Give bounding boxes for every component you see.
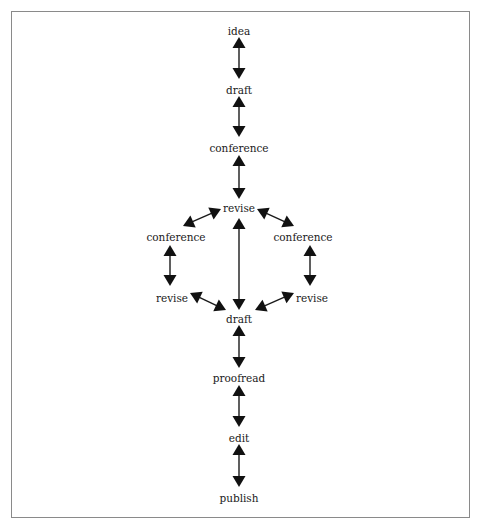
node-draft2: draft bbox=[226, 313, 253, 325]
arrowhead-icon bbox=[233, 476, 246, 487]
edge-conference_left-revise_left bbox=[164, 245, 177, 286]
arrowhead-icon bbox=[233, 155, 246, 166]
edge-proofread-edit bbox=[233, 385, 246, 427]
node-idea: idea bbox=[228, 25, 251, 37]
arrowhead-icon bbox=[233, 444, 246, 455]
arrowhead-icon bbox=[233, 188, 246, 199]
arrowhead-icon bbox=[304, 275, 317, 286]
edge-revise_center-conference_right bbox=[257, 208, 294, 228]
arrowhead-icon bbox=[233, 325, 246, 336]
edge-revise_left-draft2 bbox=[190, 292, 226, 311]
arrowhead-icon bbox=[304, 245, 317, 256]
node-revise_center: revise bbox=[223, 202, 255, 214]
writing-process-diagram: ideadraftconferencereviseconferenceconfe… bbox=[0, 0, 481, 527]
arrowhead-icon bbox=[233, 37, 246, 48]
node-publish: publish bbox=[219, 492, 258, 504]
node-conference_right: conference bbox=[273, 231, 332, 243]
edge-idea-draft1 bbox=[233, 37, 246, 79]
edge-conference1-revise_center bbox=[233, 155, 246, 199]
arrowhead-icon bbox=[233, 416, 246, 427]
node-revise_left: revise bbox=[156, 292, 188, 304]
edge-revise_right-draft2 bbox=[255, 291, 294, 311]
arrowhead-icon bbox=[233, 96, 246, 107]
node-conference_left: conference bbox=[146, 231, 205, 243]
arrowhead-icon bbox=[164, 275, 177, 286]
edges bbox=[164, 37, 317, 487]
arrowhead-icon bbox=[233, 218, 246, 229]
node-revise_right: revise bbox=[296, 292, 328, 304]
arrowhead-icon bbox=[164, 245, 177, 256]
node-edit: edit bbox=[229, 432, 250, 444]
arrowhead-icon bbox=[233, 126, 246, 137]
edge-conference_right-revise_right bbox=[304, 245, 317, 286]
edge-revise_center-conference_left bbox=[183, 208, 221, 228]
arrowhead-icon bbox=[233, 385, 246, 396]
edge-edit-publish bbox=[233, 444, 246, 487]
node-conference1: conference bbox=[209, 142, 268, 154]
node-draft1: draft bbox=[226, 84, 253, 96]
edge-revise_center-draft2 bbox=[233, 218, 246, 310]
arrowhead-icon bbox=[233, 357, 246, 368]
edge-draft1-conference1 bbox=[233, 96, 246, 137]
arrowhead-icon bbox=[233, 299, 246, 310]
arrowhead-icon bbox=[233, 68, 246, 79]
node-proofread: proofread bbox=[213, 372, 266, 384]
edge-draft2-proofread bbox=[233, 325, 246, 368]
